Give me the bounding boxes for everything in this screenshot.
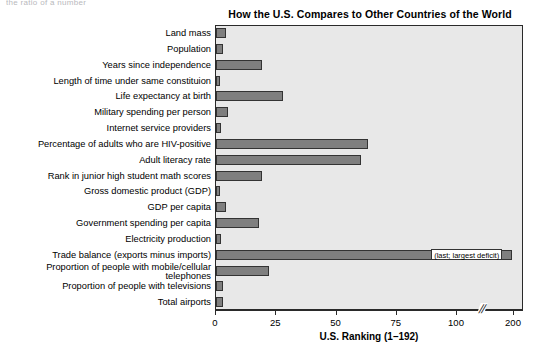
bar-row bbox=[216, 104, 522, 120]
category-label: Internet service providers bbox=[0, 123, 211, 134]
bar-row bbox=[216, 25, 522, 41]
x-tick-label: 100 bbox=[448, 317, 464, 328]
bar bbox=[216, 202, 226, 212]
bar-row bbox=[216, 199, 522, 215]
category-label: Electricity production bbox=[0, 234, 211, 245]
bar-row bbox=[216, 120, 522, 136]
x-tick-label: 75 bbox=[390, 317, 401, 328]
bar bbox=[216, 60, 262, 70]
chart-figure: the ratio of a number How the U.S. Compa… bbox=[0, 0, 542, 352]
category-axis-labels: Land massPopulationYears since independe… bbox=[0, 25, 211, 310]
bars-container: (last; largest deficit) bbox=[215, 25, 523, 310]
x-tick bbox=[456, 310, 457, 315]
category-label: Adult literacy rate bbox=[0, 155, 211, 166]
x-axis-title: U.S. Ranking (1–192) bbox=[215, 331, 523, 342]
bar-row bbox=[216, 215, 522, 231]
bar-row bbox=[216, 263, 522, 279]
bar-row bbox=[216, 73, 522, 89]
bar bbox=[216, 234, 221, 244]
bar-row bbox=[216, 278, 522, 294]
category-label: GDP per capita bbox=[0, 202, 211, 213]
bar bbox=[216, 171, 262, 181]
bar bbox=[216, 123, 221, 133]
bar bbox=[216, 44, 223, 54]
bar bbox=[216, 76, 220, 86]
bar bbox=[216, 186, 220, 196]
x-tick bbox=[396, 310, 397, 315]
category-label: Land mass bbox=[0, 28, 211, 39]
bar-row bbox=[216, 57, 522, 73]
bar-row bbox=[216, 183, 522, 199]
bar bbox=[216, 155, 361, 165]
bar-annotation: (last; largest deficit) bbox=[431, 249, 502, 260]
bar-row bbox=[216, 41, 522, 57]
bar bbox=[216, 91, 283, 101]
x-tick-label: 25 bbox=[270, 317, 281, 328]
x-tick bbox=[336, 310, 337, 315]
bar-row bbox=[216, 231, 522, 247]
category-label: Proportion of people with mobile/cellula… bbox=[0, 263, 211, 283]
bar bbox=[216, 281, 223, 291]
chart-title: How the U.S. Compares to Other Countries… bbox=[215, 8, 525, 20]
bar bbox=[216, 139, 368, 149]
bar-row bbox=[216, 136, 522, 152]
x-tick-label: 0 bbox=[212, 317, 217, 328]
bar-row bbox=[216, 88, 522, 104]
bar bbox=[216, 28, 226, 38]
category-label: Population bbox=[0, 44, 211, 55]
x-tick-label: 50 bbox=[330, 317, 341, 328]
bar bbox=[216, 297, 223, 307]
bar-row: (last; largest deficit) bbox=[216, 247, 522, 263]
bar bbox=[216, 107, 228, 117]
x-tick-label: 200 bbox=[505, 317, 521, 328]
category-label: Gross domestic product (GDP) bbox=[0, 186, 211, 197]
category-label: Proportion of people with televisions bbox=[0, 281, 211, 292]
category-label: Rank in junior high student math scores bbox=[0, 171, 211, 182]
x-tick bbox=[513, 310, 514, 315]
category-label: Life expectancy at birth bbox=[0, 91, 211, 102]
category-label: Trade balance (exports minus imports) bbox=[0, 250, 211, 261]
bar-row bbox=[216, 168, 522, 184]
clipped-top-text: the ratio of a number bbox=[6, 0, 196, 5]
bar-row bbox=[216, 152, 522, 168]
category-label: Length of time under same constituion bbox=[0, 76, 211, 87]
category-label: Total airports bbox=[0, 297, 211, 308]
bar bbox=[216, 266, 269, 276]
x-tick bbox=[215, 310, 216, 315]
bar-row bbox=[216, 294, 522, 310]
x-tick bbox=[275, 310, 276, 315]
category-label: Years since independence bbox=[0, 60, 211, 71]
bar bbox=[216, 218, 259, 228]
category-label: Percentage of adults who are HIV-positiv… bbox=[0, 139, 211, 150]
category-label: Military spending per person bbox=[0, 107, 211, 118]
category-label: Government spending per capita bbox=[0, 218, 211, 229]
